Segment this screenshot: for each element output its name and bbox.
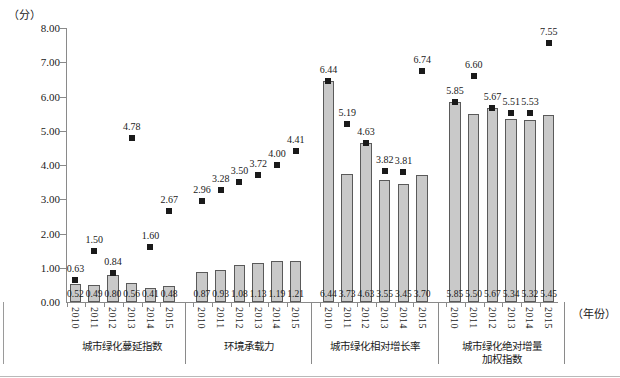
data-point-marker[interactable] [382, 168, 388, 174]
data-point-label: 3.81 [395, 155, 413, 166]
x-axis-year-label: 2010 [449, 307, 460, 329]
data-point-marker[interactable] [400, 169, 406, 175]
bar[interactable] [360, 143, 372, 302]
bar-value-label: 3.70 [414, 289, 431, 299]
y-axis-tick-label: 1.00 [14, 262, 60, 274]
bar-value-label: 3.73 [339, 289, 356, 299]
bar-value-label: 0.93 [212, 289, 229, 299]
y-axis-tick-label: 5.00 [14, 125, 60, 137]
x-axis-tick [104, 302, 105, 307]
chart-figure: （分） （年份） 0.001.002.003.004.005.006.007.0… [0, 0, 620, 378]
data-point-marker[interactable] [489, 105, 495, 111]
bar-value-label: 0.56 [123, 289, 140, 299]
data-point-label: 6.44 [320, 64, 338, 75]
plot-area [66, 28, 558, 302]
data-point-marker[interactable] [508, 110, 514, 116]
data-point-label: 4.00 [268, 148, 286, 159]
group-name-line: 加权指数 [462, 353, 542, 366]
bar[interactable] [323, 81, 335, 302]
x-axis-year-label: 2012 [234, 307, 245, 329]
bar-value-label: 5.32 [522, 289, 539, 299]
data-point-marker[interactable] [471, 73, 477, 79]
bar-value-label: 6.44 [320, 289, 337, 299]
data-point-marker[interactable] [72, 277, 78, 283]
data-point-label: 1.60 [142, 230, 160, 241]
x-axis-year-label: 2012 [107, 307, 118, 329]
data-point-label: 1.50 [85, 234, 103, 245]
y-axis-tick-label: 3.00 [14, 193, 60, 205]
x-axis-tick [502, 302, 503, 307]
x-axis-year-label: 2011 [215, 307, 226, 329]
bar[interactable] [487, 108, 499, 302]
bar[interactable] [341, 174, 353, 302]
data-point-marker[interactable] [255, 172, 261, 178]
bar-value-label: 5.67 [484, 289, 501, 299]
x-axis-tick [395, 302, 396, 307]
bar-value-label: 1.08 [231, 289, 248, 299]
bar[interactable] [416, 175, 428, 302]
data-point-marker[interactable] [91, 248, 97, 254]
data-point-marker[interactable] [110, 270, 116, 276]
bar-value-label: 1.21 [287, 289, 304, 299]
x-axis-tick [193, 302, 194, 307]
data-point-marker[interactable] [363, 140, 369, 146]
x-axis-year-label: 2014 [524, 307, 535, 329]
group-separator [438, 302, 439, 364]
bar[interactable] [449, 102, 461, 302]
x-axis-tick [268, 302, 269, 307]
y-axis-tick-label: 6.00 [14, 91, 60, 103]
bar[interactable] [398, 184, 410, 302]
x-axis-tick [540, 302, 541, 307]
data-point-marker[interactable] [325, 78, 331, 84]
x-axis-tick [212, 302, 213, 307]
group-separator [564, 302, 565, 364]
data-point-marker[interactable] [147, 244, 153, 250]
bar-value-label: 3.55 [376, 289, 393, 299]
y-axis-tick-label: 4.00 [14, 159, 60, 171]
x-axis-unit-label: （年份） [572, 305, 616, 321]
x-axis-tick [67, 302, 68, 307]
bar[interactable] [468, 114, 480, 302]
bar[interactable] [543, 115, 555, 302]
x-axis-year-label: 2015 [543, 307, 554, 329]
bar[interactable] [505, 119, 517, 302]
x-axis-year-label: 2013 [126, 307, 137, 329]
data-point-marker[interactable] [527, 110, 533, 116]
group-name-line: 城市绿化蔓延指数 [82, 340, 162, 353]
x-axis-year-label: 2014 [145, 307, 156, 329]
data-point-marker[interactable] [419, 68, 425, 74]
x-axis-year-label: 2010 [70, 307, 81, 329]
x-axis-year-label: 2011 [89, 307, 100, 329]
data-point-marker[interactable] [293, 148, 299, 154]
bar-value-label: 3.45 [395, 289, 412, 299]
group-name-label: 城市绿化相对增长率 [330, 340, 420, 353]
data-point-marker[interactable] [452, 99, 458, 105]
data-point-marker[interactable] [199, 198, 205, 204]
data-point-marker[interactable] [546, 40, 552, 46]
x-axis-tick [142, 302, 143, 307]
data-point-label: 4.78 [123, 121, 141, 132]
data-point-label: 3.82 [376, 154, 394, 165]
data-point-label: 0.84 [104, 256, 122, 267]
x-axis-tick [320, 302, 321, 307]
data-point-label: 5.85 [446, 85, 464, 96]
x-axis-year-label: 2013 [379, 307, 390, 329]
data-point-marker[interactable] [218, 187, 224, 193]
x-axis-year-label: 2011 [468, 307, 479, 329]
bar[interactable] [379, 180, 391, 302]
x-axis-tick [287, 302, 288, 307]
data-point-marker[interactable] [166, 208, 172, 214]
x-axis-tick [231, 302, 232, 307]
x-axis-year-label: 2013 [506, 307, 517, 329]
data-point-marker[interactable] [274, 162, 280, 168]
bar-value-label: 0.80 [105, 289, 122, 299]
bar[interactable] [524, 120, 536, 302]
data-point-label: 5.19 [338, 107, 356, 118]
x-axis-year-label: 2014 [398, 307, 409, 329]
data-point-marker[interactable] [129, 135, 135, 141]
x-axis-year-label: 2012 [487, 307, 498, 329]
group-separator [185, 302, 186, 364]
data-point-marker[interactable] [236, 179, 242, 185]
y-axis-unit-label: （分） [8, 6, 41, 22]
data-point-marker[interactable] [344, 121, 350, 127]
